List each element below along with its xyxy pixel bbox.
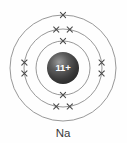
bohr-model-svg: 11+ Na bbox=[0, 0, 127, 143]
nucleus-charge-label: 11+ bbox=[56, 62, 72, 73]
element-symbol-label: Na bbox=[56, 127, 71, 139]
atomic-nucleus: 11+ bbox=[47, 52, 79, 84]
bohr-model-figure: 11+ Na bbox=[0, 0, 127, 143]
